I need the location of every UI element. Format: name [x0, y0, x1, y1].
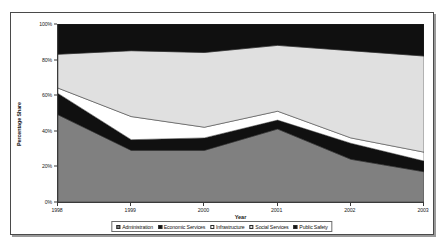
x-axis-title: Year — [57, 214, 424, 220]
legend-swatch-icon — [250, 225, 254, 229]
x-axis-tick-label: 1999 — [125, 207, 136, 213]
legend-swatch-icon — [116, 225, 120, 229]
legend-item[interactable]: Economic Services — [158, 224, 205, 230]
y-axis-tick-label: 0% — [45, 199, 52, 205]
x-axis-tick-label: 2002 — [344, 207, 355, 213]
legend-item[interactable]: Infrastructure — [210, 224, 244, 230]
y-axis-tick-label: 60% — [42, 92, 52, 98]
x-axis-tick-mark — [350, 203, 351, 206]
x-axis-tick-mark — [277, 203, 278, 206]
x-axis-tick-mark — [203, 203, 204, 206]
legend-item-label: Economic Services — [164, 224, 206, 230]
legend-item-label: Social Services — [255, 224, 288, 230]
x-axis-tick-label: 2001 — [271, 207, 282, 213]
legend-swatch-icon — [210, 225, 214, 229]
plot-wrapper — [57, 24, 424, 203]
x-axis-tick-label: 1998 — [51, 207, 62, 213]
y-axis-tick-label: 100% — [39, 21, 52, 27]
chart-card: Percentage Share 0%20%40%60%80%100% 1998… — [10, 12, 434, 235]
x-axis-tick-mark — [130, 203, 131, 206]
chart-legend: AdministrationEconomic ServicesInfrastru… — [111, 221, 332, 232]
x-axis-tick-label: 2000 — [198, 207, 209, 213]
legend-item[interactable]: Administration — [116, 224, 153, 230]
stacked-area-series-svg — [58, 24, 424, 202]
y-axis-tick-label: 80% — [42, 57, 52, 63]
legend-item[interactable]: Public Safety — [294, 224, 328, 230]
y-axis-tick-group: 0%20%40%60%80%100% — [11, 24, 57, 203]
y-axis-tick-label: 20% — [42, 163, 52, 169]
legend-item-label: Administration — [122, 224, 153, 230]
legend-item[interactable]: Social Services — [250, 224, 289, 230]
x-axis-tick-mark — [57, 203, 58, 206]
y-axis-tick-label: 40% — [42, 128, 52, 134]
legend-swatch-icon — [294, 225, 298, 229]
x-axis-tick-label: 2003 — [417, 207, 428, 213]
x-axis-tick-mark — [423, 203, 424, 206]
legend-item-label: Public Safety — [299, 224, 327, 230]
legend-swatch-icon — [158, 225, 162, 229]
legend-item-label: Infrastructure — [216, 224, 244, 230]
